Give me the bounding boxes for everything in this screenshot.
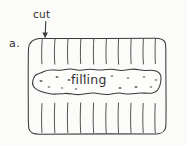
filling-speck bbox=[119, 87, 122, 89]
top-cut-marks bbox=[42, 39, 156, 65]
cut-label: cut bbox=[33, 8, 50, 20]
filling-speck bbox=[56, 76, 59, 78]
filling-speck bbox=[75, 88, 78, 90]
figure-canvas: a. cut filling bbox=[0, 0, 187, 146]
top-cut-mark bbox=[80, 39, 81, 64]
filling-speck bbox=[127, 77, 130, 79]
top-cut-mark bbox=[54, 39, 55, 64]
figure-item-letter: a. bbox=[9, 37, 20, 50]
cut-arrow bbox=[42, 22, 48, 39]
cut-arrow-head bbox=[42, 33, 48, 39]
filling-speck bbox=[61, 87, 63, 89]
top-cut-mark bbox=[42, 40, 43, 64]
filling-label: filling bbox=[71, 72, 107, 87]
filling-speck bbox=[143, 76, 146, 78]
bottom-cut-marks bbox=[42, 103, 156, 133]
filling-speck bbox=[135, 86, 138, 88]
filling-speck bbox=[155, 79, 158, 81]
cut-arrow-shaft bbox=[45, 22, 46, 35]
filling-speck bbox=[111, 75, 114, 77]
filling-speck bbox=[39, 80, 42, 82]
top-cut-mark bbox=[67, 39, 68, 64]
filling-speck bbox=[150, 86, 153, 88]
filling-speck bbox=[48, 86, 51, 88]
